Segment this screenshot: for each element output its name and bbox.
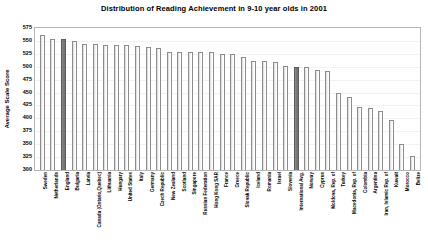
- bar[interactable]: [315, 70, 320, 170]
- bar[interactable]: [198, 52, 203, 170]
- bar[interactable]: [410, 156, 415, 170]
- bar-slot: [291, 28, 302, 170]
- bar[interactable]: [114, 45, 119, 170]
- bar[interactable]: [378, 111, 383, 170]
- x-axis-label-slot: Colombia: [355, 172, 366, 244]
- bar-slot: [249, 28, 260, 170]
- x-axis-label-slot: Hungary: [110, 172, 121, 244]
- y-axis-ticks: 575550525500475450425400375350325300: [11, 26, 33, 172]
- bar[interactable]: [336, 93, 341, 170]
- bar[interactable]: [262, 61, 267, 170]
- bar-slot: [312, 28, 323, 170]
- x-axis-label-slot: United States: [121, 172, 132, 244]
- bar[interactable]: [273, 62, 278, 170]
- bar-slot: [354, 28, 365, 170]
- x-axis-label-slot: Slovak Republic: [238, 172, 249, 244]
- x-axis-label-slot: Macedonia, Rep. of: [345, 172, 356, 244]
- bar-slot: [217, 28, 228, 170]
- bar[interactable]: [389, 120, 394, 170]
- x-axis-label-slot: Iran, Islamic Rep. of: [377, 172, 388, 244]
- bar-slot: [69, 28, 80, 170]
- bar[interactable]: [82, 44, 87, 171]
- chart-container: Distribution of Reading Achievement in 9…: [0, 0, 428, 244]
- bar-slot: [407, 28, 418, 170]
- bar[interactable]: [230, 54, 235, 170]
- bar[interactable]: [93, 44, 98, 170]
- x-axis-label-slot: Germany: [142, 172, 153, 244]
- bar-slot: [333, 28, 344, 170]
- bar[interactable]: [124, 45, 129, 170]
- bar[interactable]: [251, 61, 256, 170]
- bar[interactable]: [283, 66, 288, 170]
- bar[interactable]: [399, 144, 404, 170]
- x-axis-label-slot: Greece: [228, 172, 239, 244]
- y-axis-tick-label: 500: [23, 63, 32, 69]
- y-axis-tick-label: 575: [23, 24, 32, 30]
- y-axis-tick-label: 525: [23, 50, 32, 56]
- y-axis-tick-label: 350: [23, 140, 32, 146]
- x-axis-label-slot: Czech Republic: [153, 172, 164, 244]
- x-axis-label-slot: Moldova, Rep. of: [323, 172, 334, 244]
- bar[interactable]: [50, 39, 55, 170]
- bar[interactable]: [368, 108, 373, 170]
- x-axis-label-slot: Scotland: [174, 172, 185, 244]
- x-axis-label-slot: Slovenia: [281, 172, 292, 244]
- x-axis-label-slot: Kuwait: [387, 172, 398, 244]
- y-axis-tick-label: 325: [23, 153, 32, 159]
- bar-slot: [376, 28, 387, 170]
- x-axis-label-slot: Argentina: [366, 172, 377, 244]
- bar[interactable]: [220, 54, 225, 170]
- bar[interactable]: [304, 67, 309, 170]
- x-axis-label-slot: Romania: [259, 172, 270, 244]
- x-axis-label-slot: Lithuania: [100, 172, 111, 244]
- bar-slot: [164, 28, 175, 170]
- bar[interactable]: [146, 47, 151, 170]
- bar-slot: [143, 28, 154, 170]
- bar[interactable]: [325, 71, 330, 170]
- bar[interactable]: [167, 52, 172, 170]
- bar-slot: [111, 28, 122, 170]
- bar-slot: [122, 28, 133, 170]
- bar[interactable]: [294, 67, 299, 170]
- x-axis-label-slot: Hong Kong SAR: [206, 172, 217, 244]
- bar-slot: [153, 28, 164, 170]
- x-axis-label-slot: Morocco: [398, 172, 409, 244]
- bar[interactable]: [40, 35, 45, 170]
- x-axis-label-slot: Israel: [270, 172, 281, 244]
- bar-slot: [365, 28, 376, 170]
- bar-slot: [37, 28, 48, 170]
- x-axis-label-slot: Cyprus: [313, 172, 324, 244]
- x-axis-label-slot: Canada (Ontario,Quebec): [89, 172, 100, 244]
- x-axis-labels: SwedenNetherlandsEnglandBulgariaLatviaCa…: [34, 172, 421, 244]
- x-axis-label-slot: Belize: [408, 172, 419, 244]
- bar-series: [35, 28, 420, 170]
- bar[interactable]: [177, 52, 182, 170]
- x-axis-label-slot: Netherlands: [47, 172, 58, 244]
- bar[interactable]: [188, 52, 193, 170]
- plot-area: [34, 27, 421, 171]
- bar[interactable]: [72, 41, 77, 170]
- bar-slot: [301, 28, 312, 170]
- bar[interactable]: [241, 57, 246, 170]
- bar[interactable]: [61, 39, 66, 170]
- bar[interactable]: [135, 46, 140, 170]
- bar[interactable]: [156, 48, 161, 170]
- x-axis-label-slot: Bulgaria: [68, 172, 79, 244]
- x-axis-label-slot: International Avg.: [291, 172, 302, 244]
- bar[interactable]: [347, 97, 352, 170]
- y-axis-tick-label: 450: [23, 89, 32, 95]
- y-axis-tick-label: 300: [23, 166, 32, 172]
- x-axis-label-slot: Turkey: [334, 172, 345, 244]
- bar[interactable]: [209, 52, 214, 170]
- bar-slot: [100, 28, 111, 170]
- x-axis-label-slot: Norway: [302, 172, 313, 244]
- bar-slot: [397, 28, 408, 170]
- bar-slot: [58, 28, 69, 170]
- bar[interactable]: [103, 45, 108, 170]
- bar-slot: [79, 28, 90, 170]
- bar-slot: [175, 28, 186, 170]
- bar-slot: [386, 28, 397, 170]
- x-axis-label-slot: Singapore: [185, 172, 196, 244]
- bar[interactable]: [357, 107, 362, 170]
- x-axis-label-slot: Sweden: [36, 172, 47, 244]
